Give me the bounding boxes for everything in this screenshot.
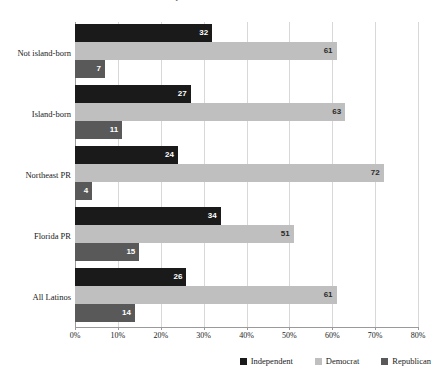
bar-northeast-pr-democrat[interactable]: 72 [75,164,384,182]
bar-value-label: 26 [174,273,183,281]
legend-item-republican[interactable]: Republican [381,356,431,366]
bar-florida-pr-republican[interactable]: 15 [75,243,139,261]
bar-value-label: 51 [281,230,290,238]
bar-northeast-pr-independent[interactable]: 24 [75,146,178,164]
bar-value-label: 24 [165,151,174,159]
bar-row: 26 [75,268,418,286]
bar-not-island-born-democrat[interactable]: 61 [75,42,337,60]
gridline-80 [418,22,419,327]
bar-row: 27 [75,85,418,103]
legend-swatch-republican [381,358,388,365]
bar-value-label: 7 [97,65,101,73]
bar-row: 32 [75,24,418,42]
bar-row: 61 [75,286,418,304]
bar-chart: Party Identification of Latinos 32617276… [0,0,439,374]
bar-row: 11 [75,121,418,139]
bar-row: 4 [75,182,418,200]
plot-area: 3261727631124724345115266114 [75,22,418,327]
bar-value-label: 72 [371,169,380,177]
x-tick-label-40: 40% [239,331,254,340]
bar-northeast-pr-republican[interactable]: 4 [75,182,92,200]
bar-florida-pr-democrat[interactable]: 51 [75,225,294,243]
x-tick-mark-20 [161,327,162,330]
x-tick-label-10: 10% [111,331,126,340]
x-tick-label-70: 70% [368,331,383,340]
x-tick-label-80: 80% [411,331,426,340]
bar-groups: 3261727631124724345115266114 [75,22,418,327]
bar-value-label: 11 [110,126,118,134]
bar-all-latinos-republican[interactable]: 14 [75,304,135,322]
bar-row: 51 [75,225,418,243]
bar-florida-pr-independent[interactable]: 34 [75,207,221,225]
bar-value-label: 27 [178,90,187,98]
bar-all-latinos-democrat[interactable]: 61 [75,286,337,304]
chart-title: Party Identification of Latinos [0,0,439,1]
category-label-northeast-pr: Northeast PR [25,170,71,180]
category-label-all-latinos: All Latinos [33,292,71,302]
bar-value-label: 61 [324,291,333,299]
x-tick-mark-50 [289,327,290,330]
bar-group-all-latinos: 266114 [75,268,418,322]
bar-not-island-born-independent[interactable]: 32 [75,24,212,42]
bar-value-label: 4 [84,187,88,195]
x-tick-mark-70 [375,327,376,330]
bar-island-born-independent[interactable]: 27 [75,85,191,103]
bar-value-label: 34 [208,212,217,220]
x-tick-mark-40 [247,327,248,330]
bar-value-label: 61 [324,47,333,55]
bar-group-island-born: 276311 [75,85,418,139]
x-tick-label-50: 50% [282,331,297,340]
category-label-not-island-born: Not island-born [17,48,71,58]
legend-item-independent[interactable]: Independent [240,356,293,366]
x-tick-label-60: 60% [325,331,340,340]
bar-group-not-island-born: 32617 [75,24,418,78]
bar-group-northeast-pr: 24724 [75,146,418,200]
bar-row: 72 [75,164,418,182]
x-tick-mark-0 [75,327,76,330]
category-axis-labels: Not island-bornIsland-bornNortheast PRFl… [0,22,71,327]
x-tick-label-0: 0% [70,331,81,340]
bar-value-label: 14 [122,309,131,317]
x-tick-mark-60 [332,327,333,330]
x-tick-label-30: 30% [196,331,211,340]
bar-row: 61 [75,42,418,60]
bar-all-latinos-independent[interactable]: 26 [75,268,186,286]
x-tick-mark-80 [418,327,419,330]
chart-legend: IndependentDemocratRepublican [0,356,431,366]
bar-value-label: 32 [199,29,208,37]
x-axis: 0%10%20%30%40%50%60%70%80% [75,327,418,345]
legend-label-democrat: Democrat [326,356,360,366]
legend-label-republican: Republican [392,356,431,366]
category-label-island-born: Island-born [32,109,71,119]
bar-island-born-democrat[interactable]: 63 [75,103,345,121]
bar-row: 7 [75,60,418,78]
legend-swatch-independent [240,358,247,365]
legend-swatch-democrat [315,358,322,365]
bar-row: 24 [75,146,418,164]
bar-row: 34 [75,207,418,225]
x-tick-mark-10 [118,327,119,330]
bar-island-born-republican[interactable]: 11 [75,121,122,139]
bar-row: 14 [75,304,418,322]
x-tick-mark-30 [204,327,205,330]
bar-row: 15 [75,243,418,261]
x-tick-label-20: 20% [153,331,168,340]
bar-value-label: 63 [332,108,341,116]
bar-not-island-born-republican[interactable]: 7 [75,60,105,78]
bar-value-label: 15 [126,248,135,256]
bar-row: 63 [75,103,418,121]
legend-label-independent: Independent [251,356,293,366]
legend-item-democrat[interactable]: Democrat [315,356,360,366]
category-label-florida-pr: Florida PR [34,231,71,241]
bar-group-florida-pr: 345115 [75,207,418,261]
